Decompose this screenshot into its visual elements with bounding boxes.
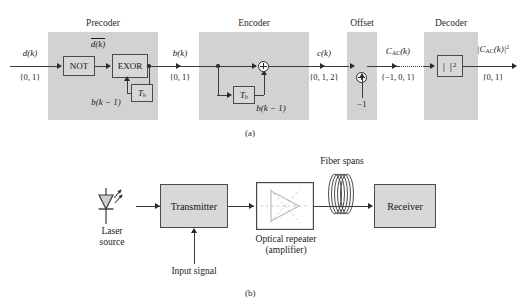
signal-output-name: |CAC(k)|2 [477, 44, 509, 54]
label-optical-repeater-line2: (amplifier) [242, 245, 330, 256]
arrowhead-to-receiver [368, 203, 373, 209]
signal-input-name: d(k) [23, 48, 38, 58]
signal-label-bk: b(k) [160, 48, 200, 58]
label-laser-source: Laser source [82, 226, 142, 248]
wire-decoder-out [463, 66, 516, 67]
wire-offset-const [362, 78, 363, 98]
signal-label-not-output: d(k) [74, 38, 122, 49]
block-not: NOT [63, 56, 95, 76]
caption-panel-a: (a) [245, 128, 255, 138]
arrowhead-input [57, 63, 62, 69]
block-decoder-magsq-label: | |2 [443, 60, 458, 72]
panel-a: Precoder Encoder Offset Decoder d(k) {0,… [0, 0, 526, 150]
signal-set-bk: {0, 1} [160, 72, 200, 82]
block-optical-repeater [256, 182, 314, 230]
arrowhead-encoder-sum-left [252, 63, 257, 69]
wire-cac-dotted [399, 66, 424, 67]
wire-encoder-out [269, 66, 349, 67]
block-exor-label: EXOR [118, 61, 143, 71]
signal-label-input: d(k) [8, 48, 52, 58]
signal-label-precoder-feedback: b(k − 1) [82, 97, 130, 107]
arrowhead-transmitter-to-repeater [249, 203, 254, 209]
stage-title-precoder: Precoder [48, 18, 158, 28]
signal-cac-name: CAC(k) [386, 46, 410, 56]
arrowhead-input-signal [191, 228, 197, 233]
arrowhead-cac [392, 63, 397, 69]
stage-title-encoder: Encoder [199, 18, 309, 28]
signal-set-output: {0, 1} [465, 72, 521, 82]
label-fiber-spans: Fiber spans [300, 156, 384, 167]
block-transmitter: Transmitter [160, 184, 228, 228]
label-optical-repeater-line1: Optical repeater [242, 234, 330, 245]
block-decoder-magsq: | |2 [437, 55, 463, 77]
label-laser-source-line2: source [82, 237, 142, 248]
signal-label-output: |CAC(k)|2 [461, 44, 525, 54]
signal-label-cac: CAC(k) [370, 46, 426, 56]
arrowhead-offset-const [359, 73, 365, 78]
block-delay-precoder-label: Tb [138, 88, 146, 98]
label-optical-repeater: Optical repeater (amplifier) [242, 234, 330, 256]
block-delay-precoder: Tb [131, 84, 153, 102]
arrowhead-encoder-delay-in [227, 92, 232, 98]
label-input-signal: Input signal [154, 266, 234, 277]
arrowhead-ck [320, 63, 325, 69]
signal-set-ck: {0, 1, 2} [300, 72, 348, 82]
wire-exor-out [148, 66, 200, 67]
block-transmitter-label: Transmitter [171, 201, 217, 212]
wire-encoder-fb-down [218, 66, 219, 95]
arrowhead-precoder-fb [124, 76, 130, 81]
arrowhead-decoder-out [512, 63, 517, 69]
wire-input-signal [194, 233, 195, 264]
block-receiver: Receiver [374, 184, 436, 228]
arrowhead-offset-sum-left [350, 63, 355, 69]
signal-ck-name: c(k) [317, 48, 331, 58]
caption-panel-b: (b) [245, 288, 256, 298]
signal-label-encoder-feedback: b(k − 1) [243, 103, 299, 113]
arrowhead-bk [176, 63, 181, 69]
fiber-spans-icon [322, 170, 360, 218]
signal-precoder-feedback-name: b(k − 1) [91, 97, 121, 107]
block-not-label: NOT [70, 61, 89, 71]
arrowhead-not-to-exor [106, 63, 111, 69]
block-delay-encoder: Tb [233, 86, 255, 104]
panel-b: Laser source Transmitter Input signal Op… [0, 150, 526, 307]
wire-encoder-in [200, 66, 256, 67]
arrowhead-decoder-in [430, 63, 435, 69]
signal-bk-name: b(k) [173, 48, 188, 58]
signal-encoder-feedback-name: b(k − 1) [256, 103, 286, 113]
wire-encoder-fb-up [264, 73, 265, 95]
signal-label-ck: c(k) [304, 48, 344, 58]
stage-title-offset: Offset [332, 18, 392, 28]
label-laser-source-line1: Laser [82, 226, 142, 237]
sum-junction-encoder [258, 61, 269, 72]
wire-input [10, 66, 58, 67]
figure-container: Precoder Encoder Offset Decoder d(k) {0,… [0, 0, 526, 307]
label-offset-const: −1 [343, 99, 381, 109]
block-delay-encoder-label: Tb [240, 90, 248, 100]
block-exor: EXOR [112, 54, 148, 78]
signal-set-cac: {−1, 0, 1} [368, 72, 428, 82]
signal-not-output-name: d(k) [91, 38, 106, 49]
stage-title-decoder: Decoder [421, 18, 481, 28]
wire-encoder-delay-out [255, 95, 264, 96]
block-receiver-label: Receiver [387, 201, 423, 212]
signal-set-input: {0, 1} [8, 72, 52, 82]
